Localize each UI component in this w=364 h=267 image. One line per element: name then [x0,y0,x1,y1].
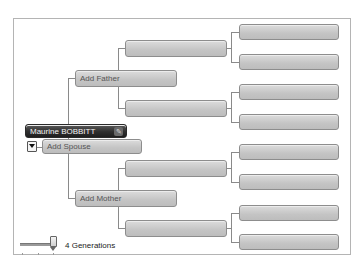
generations-slider-track[interactable] [20,243,52,246]
generations-label: 4 Generations [65,241,115,250]
great-grandparent-box[interactable] [239,144,339,160]
connector [231,122,239,123]
connector [231,242,239,243]
grandparent-box[interactable] [125,100,227,117]
great-grandparent-box[interactable] [239,54,339,70]
connector [68,78,75,79]
grandparent-box[interactable] [125,40,227,57]
slider-tick [53,253,54,255]
great-grandparent-box[interactable] [239,24,339,40]
add-mother-button[interactable]: Add Mother [75,190,177,207]
connector [231,32,232,63]
connector [231,32,239,33]
connector [118,108,125,109]
connector [118,48,125,49]
grandparent-box[interactable] [125,220,227,237]
add-mother-label: Add Mother [80,194,121,203]
slider-thumb-icon[interactable] [50,236,57,247]
slider-tick [38,253,39,255]
connector [231,152,232,183]
edit-icon[interactable]: ✎ [114,127,123,136]
grandparent-box[interactable] [125,160,227,177]
connector [231,182,239,183]
slider-tick [22,253,23,255]
connector [118,168,125,169]
add-spouse-button[interactable]: Add Spouse [42,139,142,154]
connector [231,62,239,63]
connector [68,198,75,199]
add-father-label: Add Father [80,74,120,83]
connector [231,92,232,123]
spouse-toggle-button[interactable] [27,141,37,152]
great-grandparent-box[interactable] [239,84,339,100]
connector [231,213,239,214]
great-grandparent-box[interactable] [239,205,339,221]
connector [231,92,239,93]
great-grandparent-box[interactable] [239,114,339,130]
add-father-button[interactable]: Add Father [75,70,177,87]
connector [231,213,232,243]
connector [118,228,125,229]
great-grandparent-box[interactable] [239,234,339,250]
dropdown-arrow-icon [29,144,35,148]
connector [231,152,239,153]
root-person-name: Maurine BOBBITT [30,127,95,136]
great-grandparent-box[interactable] [239,174,339,190]
add-spouse-label: Add Spouse [47,142,91,151]
root-person-box[interactable]: Maurine BOBBITT ✎ [25,124,127,138]
